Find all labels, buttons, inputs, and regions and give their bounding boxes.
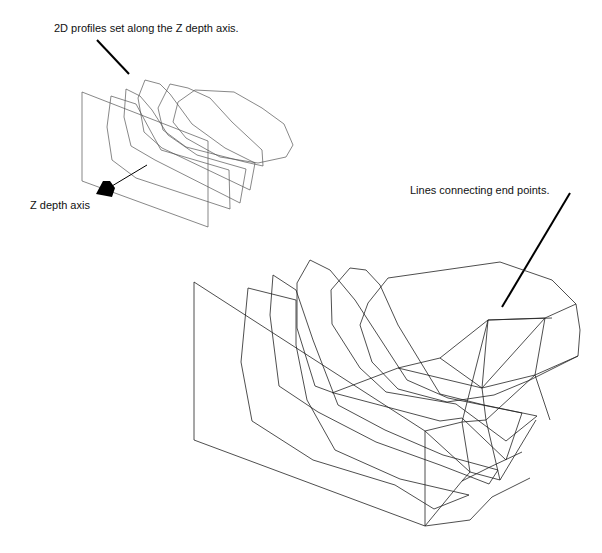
mesh-line-6 — [425, 478, 530, 526]
mesh-line-4 — [425, 420, 536, 480]
mesh-line-1 — [332, 318, 552, 393]
big-profile-5 — [331, 268, 537, 441]
mesh-line-10 — [440, 318, 545, 388]
small-profiles-diagram — [82, 40, 293, 227]
profile-4 — [138, 80, 255, 190]
z-axis-line — [112, 165, 147, 186]
pointer-profiles — [97, 40, 129, 74]
z-axis-arrow-icon — [96, 181, 115, 197]
mesh-line-3 — [398, 356, 578, 388]
mesh-line-7 — [462, 422, 470, 481]
pointer-lines — [502, 193, 570, 307]
big-profile-3 — [270, 275, 498, 484]
large-mesh-diagram — [194, 193, 580, 526]
big-profile-6 — [360, 262, 580, 402]
diagram-canvas — [0, 0, 602, 553]
mesh-line-8 — [482, 320, 500, 480]
profile-1 — [82, 92, 208, 227]
